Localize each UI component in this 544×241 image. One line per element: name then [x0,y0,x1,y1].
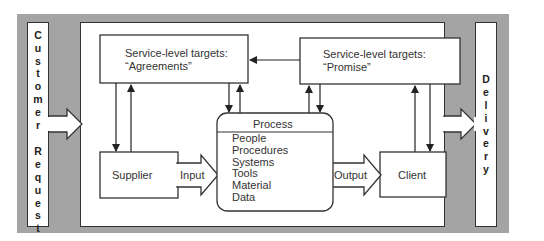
supplier-label: Supplier [112,169,152,182]
process-item: Procedures [232,145,288,157]
agreements-title: Service-level targets: [125,47,228,60]
promise-subtitle: “Promise” [323,61,371,74]
agreements-subtitle: “Agreements” [125,60,192,73]
process-title: Process [253,118,293,131]
process-item: Data [232,192,288,204]
client-label: Client [398,169,426,182]
output-label: Output [334,169,367,182]
customer-request-arrow [48,109,82,139]
promise-title: Service-level targets: [323,48,426,61]
delivery-arrow [443,109,477,139]
input-label: Input [180,169,204,182]
process-items: People Procedures Systems Tools Material… [232,133,288,204]
